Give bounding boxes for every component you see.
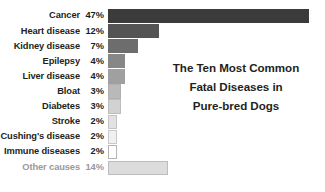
bar-value-label: 4% [80,72,108,81]
bar-track [108,130,325,144]
bar-row: Heart disease12% [0,24,325,38]
bar-track [108,24,325,38]
bar [108,130,117,144]
bar-track [108,161,325,175]
bar-row: Kidney disease7% [0,39,325,53]
bar-category-label: Liver disease [0,72,80,81]
bar [108,115,117,129]
bar-track [108,9,325,23]
bar-category-label: Kidney disease [0,42,80,51]
bar-category-label: Cancer [0,11,80,20]
bar-category-label: Immune diseases [0,147,80,156]
bar [108,39,138,53]
bar [108,161,168,175]
bar-track [108,115,325,129]
bar-value-label: 47% [80,11,108,20]
bar-value-label: 3% [80,87,108,96]
bar-category-label: Cushing's disease [0,132,80,141]
bar [108,9,309,23]
bar-row: Cancer47% [0,9,325,23]
bar-row: Stroke2% [0,115,325,129]
bar-row: Other causes14% [0,161,325,175]
bar [108,99,121,113]
bar-value-label: 14% [80,163,108,172]
bar-category-label: Heart disease [0,27,80,36]
bar [108,69,125,83]
bar [108,24,159,38]
bar-value-label: 7% [80,42,108,51]
bar-value-label: 2% [80,147,108,156]
bar-value-label: 3% [80,102,108,111]
bar [108,84,121,98]
chart-title: The Ten Most Common Fatal Diseases in Pu… [150,59,322,115]
bar-chart: Cancer47%Heart disease12%Kidney disease7… [0,0,325,192]
chart-title-line-1: The Ten Most Common [150,59,322,78]
bar-category-label: Epilepsy [0,57,80,66]
bar-category-label: Other causes [0,163,80,172]
bar [108,54,125,68]
bar-row: Cushing's disease2% [0,130,325,144]
bar-category-label: Bloat [0,87,80,96]
bar-track [108,39,325,53]
chart-title-line-3: Pure-bred Dogs [150,97,322,116]
bar-track [108,145,325,159]
bar-row: Immune diseases2% [0,145,325,159]
bar-category-label: Stroke [0,117,80,126]
bar [108,145,117,159]
bar-value-label: 4% [80,57,108,66]
bar-value-label: 12% [80,27,108,36]
bar-category-label: Diabetes [0,102,80,111]
bar-value-label: 2% [80,117,108,126]
bar-value-label: 2% [80,132,108,141]
chart-title-line-2: Fatal Diseases in [150,78,322,97]
